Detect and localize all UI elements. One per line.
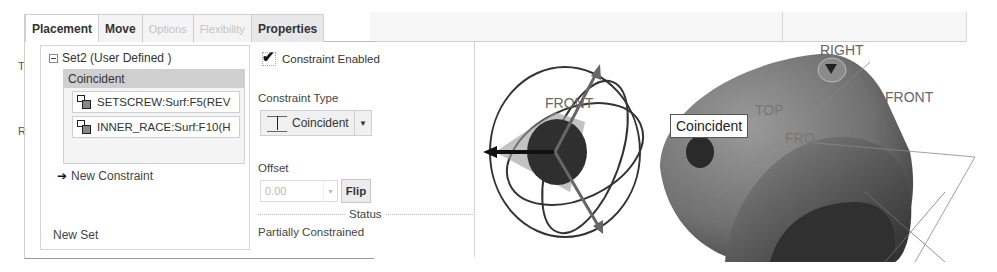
reference-label: INNER_RACE:Surf:F10(H (97, 121, 231, 133)
arrow-right-icon: ➔ (57, 169, 67, 183)
constraint-type-value: Coincident (292, 116, 349, 130)
constraint-type-value-box[interactable]: Coincident (261, 111, 355, 135)
dashboard-tabs: Placement Move Options Flexibility Prope… (25, 14, 375, 42)
tab-properties[interactable]: Properties (251, 14, 324, 42)
constraint-title[interactable]: Coincident (64, 70, 244, 88)
offset-input[interactable]: 0.00 ▼ (260, 180, 338, 202)
constraint-type-select[interactable]: Coincident ▼ (260, 110, 372, 136)
constraint-group: Coincident SETSCREW:Surf:F5(REV INNER_RA… (63, 69, 245, 164)
chevron-down-icon[interactable]: ▼ (323, 181, 337, 201)
constraint-tooltip: Coincident (670, 114, 748, 138)
3d-viewport[interactable]: FRONT RIGHT FRONT TOP FRO (475, 42, 975, 262)
constraint-enabled-label: Constraint Enabled (282, 53, 380, 65)
datum-label-front-faint: FRO (785, 130, 815, 146)
datum-label-front: FRONT (545, 95, 593, 111)
surface-ref-icon (76, 119, 94, 135)
status-value: Partially Constrained (258, 226, 364, 238)
constraint-enabled-row[interactable]: Constraint Enabled (262, 52, 380, 66)
surface-ref-icon (76, 94, 94, 110)
constraint-enabled-checkbox[interactable] (262, 52, 276, 66)
offset-value[interactable]: 0.00 (261, 181, 323, 201)
reference-item-setscrew[interactable]: SETSCREW:Surf:F5(REV (72, 91, 240, 113)
set-header-label: Set2 (User Defined ) (62, 51, 171, 65)
status-label: Status (346, 208, 385, 220)
constraint-type-label: Constraint Type (258, 92, 338, 104)
tab-placement[interactable]: Placement (25, 14, 99, 42)
coincident-icon (267, 116, 287, 130)
chevron-down-icon[interactable]: ▼ (355, 111, 371, 135)
offset-label: Offset (258, 162, 288, 174)
reference-item-inner-race[interactable]: INNER_RACE:Surf:F10(H (72, 116, 240, 138)
toolbar-separator (966, 12, 967, 42)
tab-move[interactable]: Move (98, 14, 143, 42)
new-set-button[interactable]: New Set (53, 228, 98, 242)
flip-button[interactable]: Flip (341, 179, 371, 203)
set-header[interactable]: Set2 (User Defined ) (49, 51, 171, 65)
datum-label-top: TOP (755, 102, 784, 118)
collapse-icon[interactable] (49, 54, 58, 63)
tab-flexibility[interactable]: Flexibility (193, 14, 252, 42)
datum-label-right: RIGHT (820, 42, 864, 58)
constraint-sets-list: Set2 (User Defined ) Coincident SETSCREW… (40, 45, 250, 250)
datum-label-front: FRONT (885, 89, 933, 105)
toolbar-separator (782, 12, 783, 42)
model-graphics (475, 42, 975, 262)
reference-label: SETSCREW:Surf:F5(REV (97, 96, 230, 108)
dashboard-toolbar-strip (370, 12, 967, 42)
new-constraint-label: New Constraint (71, 169, 153, 183)
new-constraint-button[interactable]: ➔ New Constraint (57, 169, 153, 183)
tab-options[interactable]: Options (142, 14, 194, 42)
